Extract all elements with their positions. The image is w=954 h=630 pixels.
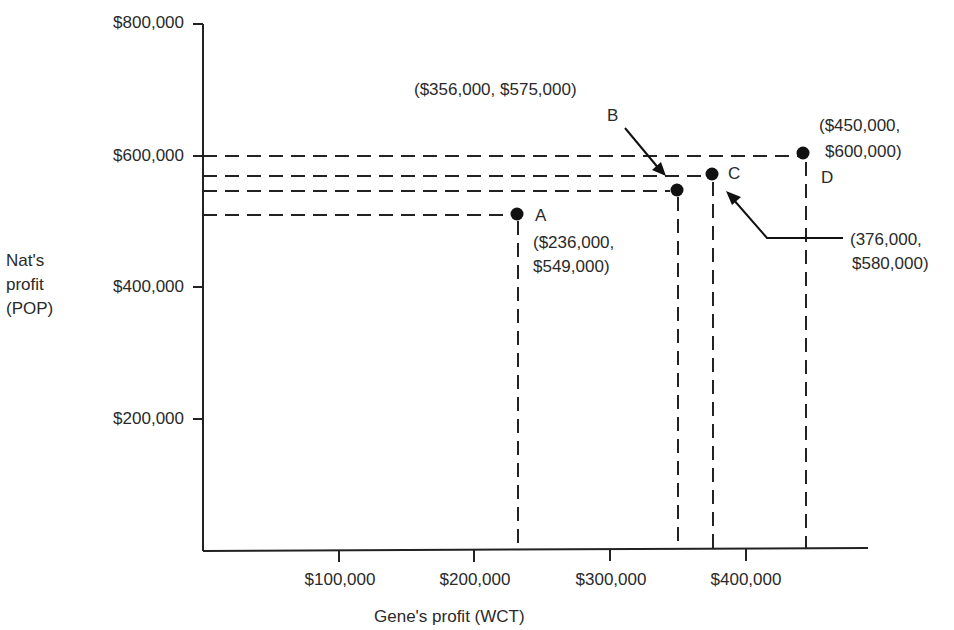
point-c-coords-1: (376,000, xyxy=(850,229,922,251)
projection-lines xyxy=(203,156,806,550)
x-axis-line xyxy=(203,548,868,551)
point-a-coords-2: $549,000) xyxy=(533,256,610,278)
x-tick-label-200k: $200,000 xyxy=(415,569,535,591)
point-b-coords: ($356,000, $575,000) xyxy=(414,79,577,101)
y-tick-label-200k: $200,000 xyxy=(74,408,184,430)
point-d-coords-2: $600,000) xyxy=(825,141,902,163)
data-points xyxy=(511,147,810,221)
point-d-coords-1: ($450,000, xyxy=(819,115,900,137)
y-axis-label-line-3: (POP) xyxy=(6,298,53,320)
y-axis-label-line-2: profit xyxy=(6,274,44,296)
y-tick-label-400k: $400,000 xyxy=(74,276,184,298)
arrow-c xyxy=(726,191,843,238)
point-d xyxy=(797,147,810,160)
point-c-coords-2: $580,000) xyxy=(852,253,929,275)
point-c-label: C xyxy=(728,163,740,185)
x-axis-label: Gene's profit (WCT) xyxy=(374,606,525,628)
point-b-label: B xyxy=(607,105,618,127)
point-a xyxy=(511,208,524,221)
point-c xyxy=(706,168,719,181)
x-tick-label-400k: $400,000 xyxy=(686,569,806,591)
axes xyxy=(193,24,868,562)
point-b xyxy=(671,184,684,197)
y-tick-label-800k: $800,000 xyxy=(74,12,184,34)
y-axis-label-line-1: Nat's xyxy=(6,250,44,272)
point-a-label: A xyxy=(535,205,546,227)
point-a-coords-1: ($236,000, xyxy=(533,232,614,254)
y-tick-label-600k: $600,000 xyxy=(74,145,184,167)
x-tick-label-100k: $100,000 xyxy=(280,569,400,591)
point-d-label: D xyxy=(821,167,833,189)
arrow-b xyxy=(625,128,666,176)
x-tick-label-300k: $300,000 xyxy=(551,569,671,591)
